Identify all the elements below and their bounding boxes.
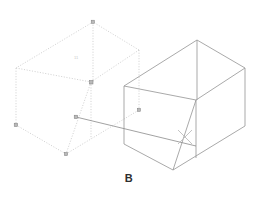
leader-line xyxy=(76,117,196,146)
solid-edge-bot-left-front xyxy=(124,144,173,170)
grip-leader-base[interactable] xyxy=(74,115,77,118)
solid-edge-top-front-right xyxy=(196,68,245,100)
solid-edge-top-right-back xyxy=(197,40,245,68)
solid-edge-top-back-left xyxy=(124,40,197,86)
grip-bot-left[interactable] xyxy=(14,123,17,126)
cad-drawing-canvas[interactable]: 11 xyxy=(0,0,258,197)
solid-edge-top-left-front xyxy=(124,86,196,100)
ghost-edge-top-back-left xyxy=(16,22,93,68)
grip-top-front[interactable] xyxy=(89,80,93,84)
grip-top-back[interactable] xyxy=(91,20,94,23)
figure-caption: B xyxy=(0,172,258,185)
grip-bot-right[interactable] xyxy=(137,108,140,111)
x-cursor xyxy=(178,130,192,144)
dimension-label: 11 xyxy=(74,55,79,60)
ghost-edge-top-right-back xyxy=(93,22,139,50)
solid-box[interactable] xyxy=(124,40,245,170)
solid-edge-bot-front-right xyxy=(173,126,245,170)
cad-viewport-svg: 11 xyxy=(0,0,258,197)
ghost-edge-top-left-front xyxy=(16,68,91,82)
ghost-edge-top-front-right xyxy=(91,50,139,82)
dashed-preview-box[interactable] xyxy=(16,22,139,154)
ghost-edge-bot-left-front xyxy=(16,125,66,154)
grip-bot-front[interactable] xyxy=(64,152,67,155)
solid-edge-bot-front-vert xyxy=(173,100,196,170)
